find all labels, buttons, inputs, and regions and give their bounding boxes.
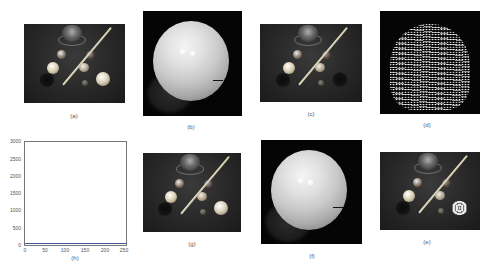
striped-ball xyxy=(413,178,422,187)
striped-ball xyxy=(175,179,184,188)
teapot xyxy=(62,25,82,42)
caption-e: (e) xyxy=(423,239,430,245)
sphere xyxy=(153,21,229,101)
y-tick: 3000 xyxy=(1,138,21,144)
teapot xyxy=(298,25,318,42)
highlight xyxy=(180,49,185,54)
x-tick: 0 xyxy=(24,247,27,253)
small-ball xyxy=(200,209,206,215)
highlight xyxy=(190,51,195,56)
y-tick: 1500 xyxy=(1,190,21,196)
sphere xyxy=(271,150,347,230)
ball-front-right xyxy=(96,72,110,86)
caption-b: (b) xyxy=(187,124,194,130)
removed-ball-hole xyxy=(332,72,348,87)
panel-g-image xyxy=(143,153,241,232)
small-ball xyxy=(438,208,444,214)
highlight xyxy=(298,178,303,183)
striped-ball xyxy=(293,50,302,59)
panel-d-image xyxy=(380,11,480,114)
ball-front-right xyxy=(214,201,228,215)
panel-a-image xyxy=(24,24,125,103)
teapot xyxy=(418,153,438,170)
x-tick: 50 xyxy=(42,247,48,253)
panel-c-image xyxy=(260,24,362,102)
highlight xyxy=(308,180,313,185)
caption-g: (g) xyxy=(188,241,195,247)
x-tick: 100 xyxy=(61,247,69,253)
y-tick: 500 xyxy=(1,225,21,231)
panel-f-image xyxy=(261,140,362,244)
histogram-plot xyxy=(24,141,127,246)
noise-stripes xyxy=(390,24,470,110)
y-tick: 0 xyxy=(1,242,21,248)
dark-ball xyxy=(275,73,291,87)
histogram-baseline xyxy=(25,243,126,244)
dark-ball xyxy=(39,73,55,87)
caption-d: (d) xyxy=(423,122,430,128)
caption-h: (h) xyxy=(71,255,78,261)
dark-ball xyxy=(395,201,411,215)
dark-ball xyxy=(157,202,173,216)
y-tick: 1000 xyxy=(1,207,21,213)
small-ball xyxy=(318,80,324,86)
caption-f: (f) xyxy=(309,253,315,259)
small-ball xyxy=(82,80,88,86)
y-tick: 2000 xyxy=(1,173,21,179)
panel-b-image xyxy=(143,11,242,116)
dark-mark xyxy=(333,207,343,208)
dark-mark xyxy=(213,80,223,81)
striped-ball xyxy=(57,50,66,59)
panel-e-image xyxy=(380,152,480,230)
y-tick: 2500 xyxy=(1,156,21,162)
caption-c: (c) xyxy=(308,111,315,117)
x-tick: 200 xyxy=(101,247,109,253)
caption-a: (a) xyxy=(70,113,77,119)
x-tick: 250 xyxy=(120,247,128,253)
x-tick: 150 xyxy=(81,247,89,253)
noisy-ball xyxy=(452,201,467,215)
teapot xyxy=(180,154,200,171)
